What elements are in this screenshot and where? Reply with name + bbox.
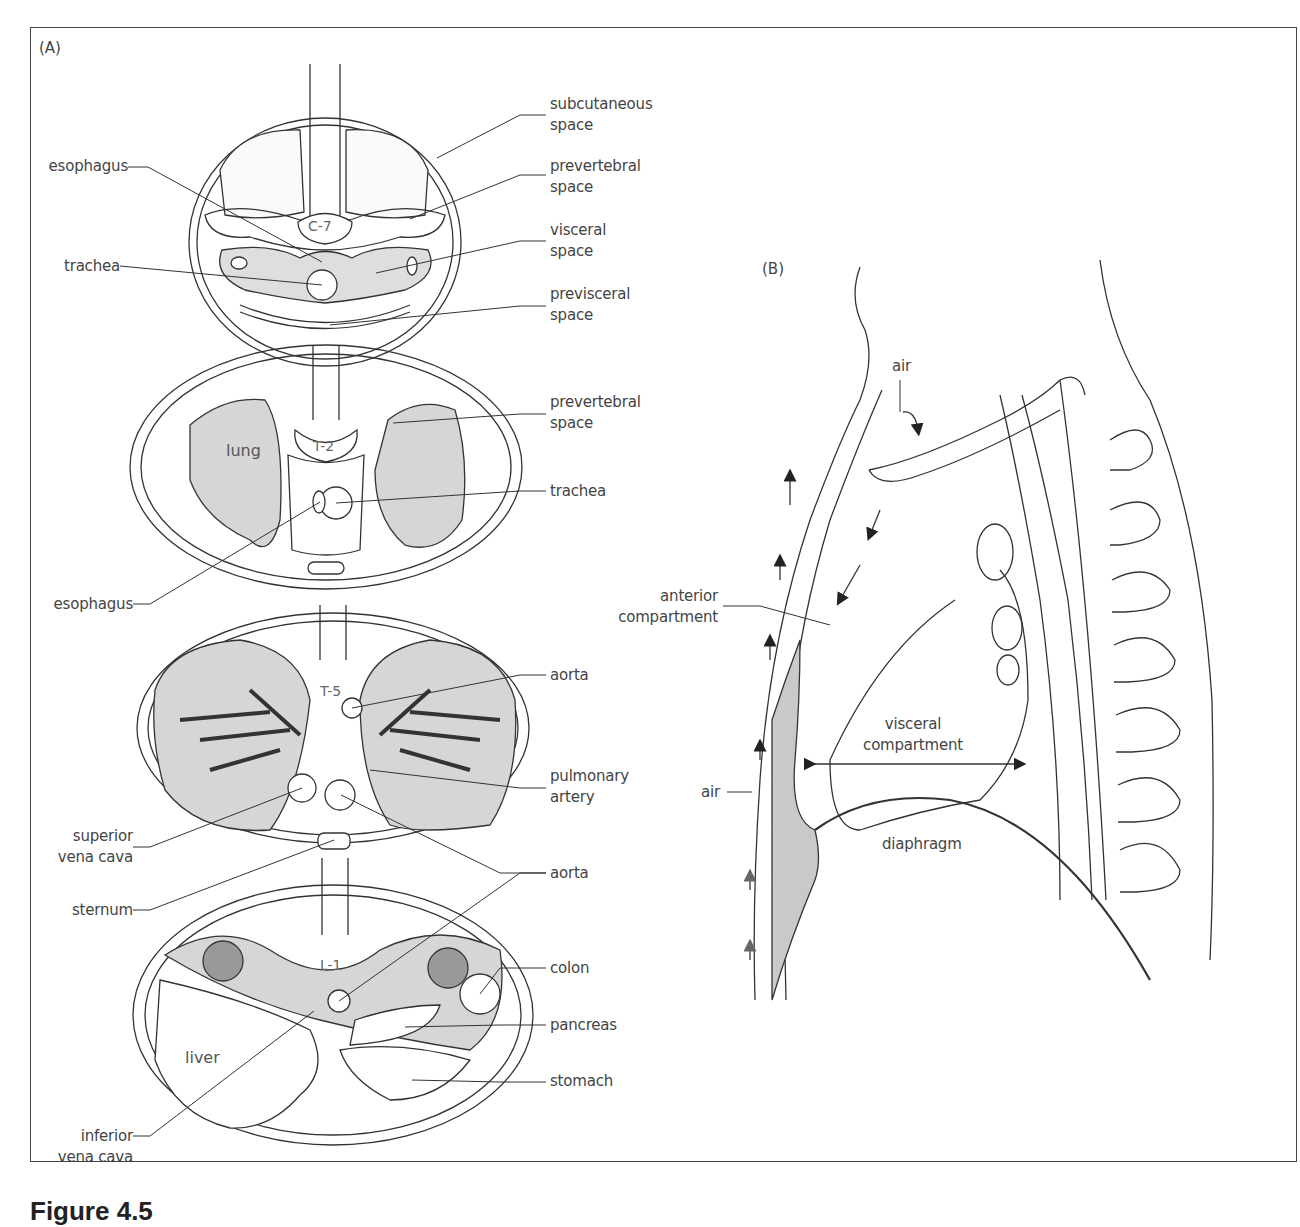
label-colon: colon (550, 958, 589, 979)
label-diaphragm: diaphragm (882, 834, 962, 855)
label-pancreas: pancreas (550, 1015, 617, 1036)
label-inferior-vena-cava: inferior vena cava (58, 1126, 133, 1168)
label-visceral-compartment: visceral compartment (838, 714, 988, 756)
panel-a-tag: (A) (39, 39, 61, 57)
label-sternum: sternum (72, 900, 133, 921)
vertebra-label-l1: L-1 (320, 957, 342, 973)
figure-caption: Figure 4.5 (30, 1196, 153, 1227)
label-esophagus-c7: esophagus (49, 156, 128, 177)
label-aorta-l1: aorta (550, 863, 589, 884)
label-esophagus-t2: esophagus (54, 594, 133, 615)
vertebra-label-t5: T-5 (320, 683, 341, 699)
section-t5 (137, 605, 529, 849)
label-prevertebral-space-t2: prevertebral space (550, 392, 641, 434)
label-superior-vena-cava: superior vena cava (58, 826, 133, 868)
label-prevertebral-space-c7: prevertebral space (550, 156, 641, 198)
label-pulmonary-artery: pulmonary artery (550, 766, 629, 808)
panel-b-tag: (B) (762, 260, 784, 278)
label-visceral-space: visceral space (550, 220, 606, 262)
label-trachea-c7: trachea (64, 256, 120, 277)
organ-label-liver: liver (185, 1048, 220, 1067)
label-previsceral-space: previsceral space (550, 284, 630, 326)
vertebra-label-t2: T-2 (313, 438, 334, 454)
label-air-left: air (701, 782, 720, 803)
panel-b-sagittal (723, 260, 1213, 1000)
vertebra-label-c7: C-7 (308, 218, 332, 234)
section-t2 (130, 345, 522, 589)
section-l1 (133, 858, 533, 1145)
label-air-top: air (892, 356, 911, 377)
label-anterior-compartment: anterior compartment (618, 586, 718, 628)
label-subcutaneous-space: subcutaneous space (550, 94, 653, 136)
label-aorta-t5: aorta (550, 665, 589, 686)
organ-label-lung: lung (226, 441, 261, 460)
label-stomach: stomach (550, 1071, 613, 1092)
label-trachea-t2: trachea (550, 481, 606, 502)
